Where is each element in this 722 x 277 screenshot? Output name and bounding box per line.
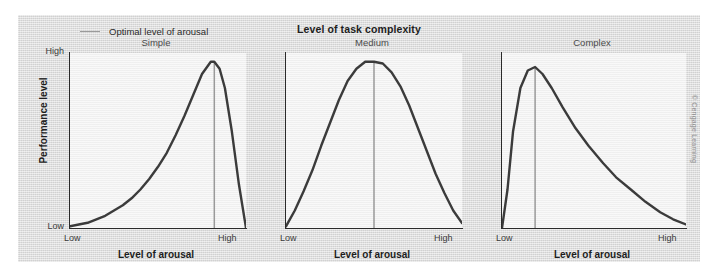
panel-title-simple: Simple bbox=[52, 37, 260, 48]
y-axis-line-complex bbox=[501, 52, 502, 229]
panel-title-complex: Complex bbox=[484, 37, 700, 48]
x-tick-low-complex: Low bbox=[496, 233, 513, 243]
copyright-credit: © Cengage Learning bbox=[691, 95, 698, 163]
y-axis-line-medium bbox=[285, 52, 286, 229]
panel-title-medium: Medium bbox=[268, 37, 476, 48]
legend-swatch-optimal-arousal bbox=[80, 31, 100, 33]
x-axis-title-medium: Level of arousal bbox=[268, 249, 476, 260]
figure-panel: Level of task complexity Performance lev… bbox=[18, 15, 700, 262]
performance-curve-complex bbox=[502, 67, 686, 228]
plot-area-simple bbox=[70, 53, 246, 228]
curve-svg-simple bbox=[70, 53, 246, 228]
x-tick-high-medium: High bbox=[434, 233, 453, 243]
panel-medium: Medium Low High Level of arousal bbox=[268, 15, 476, 262]
curve-svg-complex bbox=[502, 53, 686, 228]
x-axis-line-complex bbox=[501, 228, 687, 229]
performance-curve-simple bbox=[70, 62, 246, 228]
legend: Optimal level of arousal bbox=[80, 26, 208, 37]
plot-area-complex bbox=[502, 53, 686, 228]
panel-simple: Simple Low High Level of arousal Optimal… bbox=[52, 15, 260, 262]
y-axis-title: Performance level bbox=[38, 46, 49, 196]
x-axis-line-simple bbox=[69, 228, 247, 229]
x-tick-high-simple: High bbox=[218, 233, 237, 243]
x-axis-title-simple: Level of arousal bbox=[52, 249, 260, 260]
x-tick-low-medium: Low bbox=[280, 233, 297, 243]
x-tick-high-complex: High bbox=[658, 233, 677, 243]
x-tick-low-simple: Low bbox=[64, 233, 81, 243]
x-axis-title-complex: Level of arousal bbox=[484, 249, 700, 260]
panel-complex: Complex Low High Level of arousal bbox=[484, 15, 700, 262]
curve-svg-medium bbox=[286, 53, 462, 228]
legend-label-optimal-arousal: Optimal level of arousal bbox=[109, 26, 208, 37]
x-axis-line-medium bbox=[285, 228, 463, 229]
plot-area-medium bbox=[286, 53, 462, 228]
y-axis-line-simple bbox=[69, 52, 70, 229]
